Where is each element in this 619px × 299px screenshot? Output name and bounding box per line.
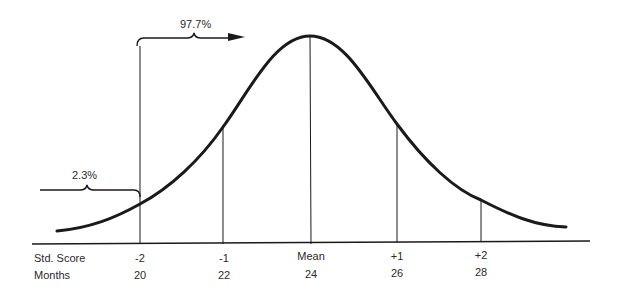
annotation-high-percent: 97.7% — [180, 18, 211, 30]
row-label-months: Months — [34, 269, 70, 281]
std-score-plus2: +2 — [475, 249, 488, 261]
bell-curve — [57, 36, 566, 231]
arrow-head-icon — [228, 33, 245, 41]
std-score-mean: Mean — [297, 250, 325, 262]
months-28: 28 — [475, 266, 487, 278]
std-score-plus1: +1 — [391, 250, 404, 262]
months-26: 26 — [391, 267, 403, 279]
brace-low — [40, 185, 140, 197]
std-score-minus1: -1 — [219, 252, 229, 264]
months-20: 20 — [134, 269, 146, 281]
row-label-std-score: Std. Score — [34, 252, 85, 264]
brace-high — [137, 33, 230, 46]
months-24: 24 — [305, 268, 317, 280]
marker-line-mean — [310, 36, 311, 244]
std-score-minus2: -2 — [135, 252, 145, 264]
annotation-low-percent: 2.3% — [72, 169, 97, 181]
months-22: 22 — [218, 269, 230, 281]
